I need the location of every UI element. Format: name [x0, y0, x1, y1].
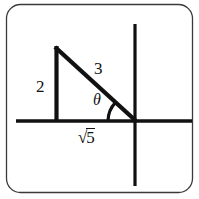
label-hypotenuse: 3 [94, 60, 103, 77]
label-angle-theta: θ [93, 92, 101, 108]
radicand-value: 5 [86, 128, 95, 146]
label-adjacent-side: √5 [78, 128, 95, 146]
math-figure-canvas: 2 3 θ √5 [0, 0, 199, 199]
radical-group: √5 [78, 128, 95, 146]
label-opposite-side: 2 [36, 78, 45, 95]
